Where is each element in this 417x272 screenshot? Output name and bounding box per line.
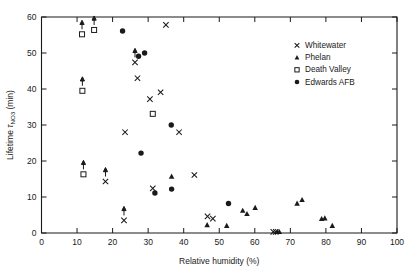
- x-tick-label: 40: [179, 237, 189, 247]
- data-point: [169, 186, 174, 191]
- data-point: [103, 168, 108, 185]
- series-death-valley: [80, 16, 156, 177]
- data-point: [294, 200, 300, 205]
- x-tick-label: 0: [39, 237, 44, 247]
- data-point: [169, 122, 174, 127]
- data-point: [150, 186, 155, 191]
- data-point: [176, 130, 181, 135]
- data-point: [244, 211, 250, 216]
- legend-item-whitewater: Whitewater: [295, 41, 347, 50]
- x-axis-title: Relative humidity (%): [179, 256, 259, 266]
- x-tick-label: 100: [390, 237, 404, 247]
- data-point: [147, 96, 152, 101]
- data-point: [205, 214, 210, 219]
- data-point: [224, 223, 230, 228]
- data-point: [226, 201, 231, 206]
- legend-label: Death Valley: [305, 65, 352, 74]
- y-tick-label: 0: [32, 228, 37, 238]
- data-point: [120, 28, 125, 33]
- data-point: [299, 197, 305, 202]
- data-point: [322, 215, 328, 220]
- data-point: [150, 111, 155, 116]
- data-point: [80, 20, 85, 36]
- data-point: [80, 77, 85, 94]
- data-point: [163, 22, 168, 27]
- data-point: [240, 208, 246, 213]
- data-point: [122, 130, 127, 135]
- legend: WhitewaterPhelanDeath ValleyEdwards AFB: [295, 41, 356, 87]
- y-tick-label: 10: [27, 192, 37, 202]
- data-point: [158, 90, 163, 95]
- series-whitewater: [103, 22, 279, 234]
- x-tick-label: 70: [286, 237, 296, 247]
- scatter-chart: 01020304050607080901000102030405060Relat…: [0, 0, 417, 272]
- x-tick-label: 90: [357, 237, 367, 247]
- x-tick-label: 80: [321, 237, 331, 247]
- data-point: [330, 223, 336, 228]
- data-point: [142, 50, 147, 55]
- data-point: [138, 150, 143, 155]
- x-tick-label: 50: [215, 237, 225, 247]
- legend-item-phelan: Phelan: [295, 53, 331, 62]
- y-tick-label: 20: [27, 156, 37, 166]
- y-tick-label: 60: [27, 12, 37, 22]
- data-point: [121, 206, 126, 223]
- legend-label: Phelan: [305, 53, 331, 62]
- data-point: [136, 54, 141, 59]
- y-tick-label: 50: [27, 48, 37, 58]
- series-edwards-afb: [120, 28, 231, 206]
- legend-label: Edwards AFB: [305, 78, 355, 87]
- data-point: [192, 172, 197, 177]
- data-point: [204, 222, 210, 227]
- y-tick-label: 40: [27, 84, 37, 94]
- data-point: [210, 216, 215, 221]
- x-axis: 0102030405060708090100: [39, 17, 404, 247]
- x-tick-label: 60: [250, 237, 260, 247]
- legend-label: Whitewater: [305, 41, 346, 50]
- x-tick-label: 10: [72, 237, 82, 247]
- series-phelan: [169, 173, 335, 234]
- data-point: [169, 173, 175, 178]
- legend-item-edwards-afb: Edwards AFB: [295, 78, 355, 87]
- x-tick-label: 30: [143, 237, 153, 247]
- x-tick-label: 20: [108, 237, 118, 247]
- data-point: [135, 76, 140, 81]
- y-tick-label: 30: [27, 120, 37, 130]
- data-point: [81, 160, 86, 177]
- svg-text:Lifetime τNO3 (min): Lifetime τNO3 (min): [5, 90, 16, 160]
- data-points: [80, 16, 336, 235]
- data-point: [252, 205, 258, 210]
- y-axis-title: Lifetime τNO3 (min): [5, 90, 16, 160]
- legend-item-death-valley: Death Valley: [295, 65, 352, 74]
- data-point: [92, 16, 97, 33]
- data-point: [152, 190, 157, 195]
- figure-container: 01020304050607080901000102030405060Relat…: [0, 0, 417, 272]
